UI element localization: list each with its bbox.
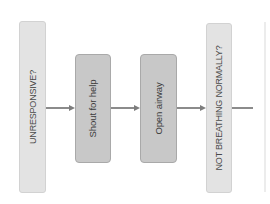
cutoff-content <box>264 22 266 192</box>
connector-airway-to-not-breathing <box>177 107 201 109</box>
node-not-breathing-normally-label: NOT BREATHING NORMALLY? <box>214 46 224 171</box>
node-shout-for-help: Shout for help <box>75 54 111 163</box>
connector-unresponsive-to-shout <box>46 107 70 109</box>
connector-shout-to-airway <box>111 107 135 109</box>
node-unresponsive: UNRESPONSIVE? <box>19 21 46 193</box>
node-open-airway: Open airway <box>140 54 177 163</box>
node-open-airway-label: Open airway <box>153 82 164 134</box>
node-not-breathing-normally: NOT BREATHING NORMALLY? <box>206 23 232 193</box>
node-shout-for-help-label: Shout for help <box>88 80 99 138</box>
connector-not-breathing-continues <box>232 107 253 109</box>
node-unresponsive-label: UNRESPONSIVE? <box>28 70 38 144</box>
